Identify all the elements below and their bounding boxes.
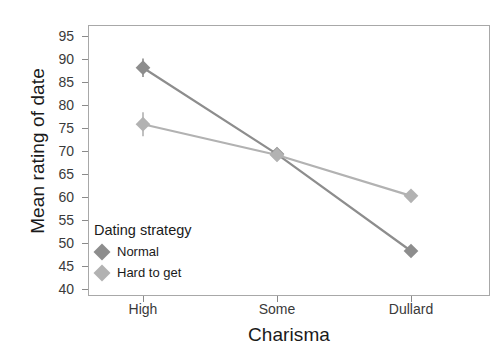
- y-tick-label: 95: [34, 28, 74, 44]
- x-tick-mark: [411, 296, 412, 302]
- y-tick-label: 70: [34, 143, 74, 159]
- y-tick-mark: [82, 243, 88, 244]
- y-tick-label: 45: [34, 258, 74, 274]
- y-tick-mark: [82, 36, 88, 37]
- legend-label: Hard to get: [117, 265, 181, 280]
- y-tick-label: 65: [34, 166, 74, 182]
- y-tick-label: 85: [34, 74, 74, 90]
- y-tick-label: 80: [34, 97, 74, 113]
- y-tick-mark: [82, 82, 88, 83]
- y-tick-label: 40: [34, 281, 74, 297]
- legend-swatch-diamond-icon: [92, 242, 112, 262]
- x-tick-label: Dullard: [351, 301, 471, 317]
- y-tick-mark: [82, 266, 88, 267]
- y-tick-mark: [82, 105, 88, 106]
- y-tick-mark: [82, 174, 88, 175]
- legend-swatch-diamond-icon: [92, 263, 112, 283]
- y-tick-label: 90: [34, 51, 74, 67]
- x-tick-label: High: [83, 301, 203, 317]
- legend-title: Dating strategy: [92, 222, 242, 238]
- y-tick-mark: [82, 289, 88, 290]
- y-tick-label: 55: [34, 212, 74, 228]
- y-tick-label: 75: [34, 120, 74, 136]
- y-tick-mark: [82, 220, 88, 221]
- legend: Dating strategy NormalHard to get: [92, 222, 242, 283]
- y-tick-label: 50: [34, 235, 74, 251]
- x-tick-mark: [277, 296, 278, 302]
- x-axis-title: Charisma: [88, 324, 490, 346]
- y-tick-label: 60: [34, 189, 74, 205]
- y-tick-mark: [82, 197, 88, 198]
- x-tick-label: Some: [217, 301, 337, 317]
- legend-item[interactable]: Hard to get: [92, 262, 242, 283]
- legend-label: Normal: [117, 244, 159, 259]
- legend-item[interactable]: Normal: [92, 241, 242, 262]
- y-tick-mark: [82, 151, 88, 152]
- chart-figure: Mean rating of date Charisma 95908580757…: [0, 0, 497, 358]
- y-tick-mark: [82, 59, 88, 60]
- legend-items: NormalHard to get: [92, 241, 242, 283]
- x-tick-mark: [143, 296, 144, 302]
- y-tick-mark: [82, 128, 88, 129]
